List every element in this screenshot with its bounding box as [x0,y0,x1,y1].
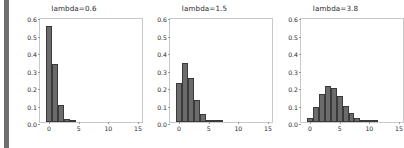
subplot-title: lambda=3.8 [270,4,401,13]
y-tick-mark [168,72,170,73]
y-tick-mark [299,54,301,55]
y-tick-label: 0.2 [157,86,167,93]
y-tick-label: 0.6 [288,16,298,23]
axes-frame: 0.00.10.20.30.40.50.6051015 [300,18,404,123]
y-tick-label: 0.2 [288,86,298,93]
y-tick-label: 0.3 [157,68,167,75]
x-tick-label: 10 [365,125,373,132]
y-tick-mark [38,124,40,125]
axes-frame: 0.00.10.20.30.40.50.6051015 [169,18,273,123]
plot-area [301,19,403,122]
y-tick-mark [38,54,40,55]
y-tick-mark [168,107,170,108]
y-tick-mark [299,37,301,38]
x-tick-label: 10 [104,125,112,132]
y-tick-mark [38,89,40,90]
y-tick-mark [38,107,40,108]
y-tick-mark [168,37,170,38]
y-tick-label: 0.4 [157,51,167,58]
axes-frame: 0.00.10.20.30.40.50.6051015 [39,18,143,123]
y-tick-mark [168,19,170,20]
y-tick-mark [168,89,170,90]
x-tick-mark [79,122,80,124]
y-tick-label: 0.2 [27,86,37,93]
y-tick-mark [38,37,40,38]
x-tick-label: 5 [338,125,342,132]
x-tick-mark [179,122,180,124]
x-tick-label: 0 [308,125,312,132]
y-tick-mark [299,19,301,20]
y-tick-mark [299,107,301,108]
y-tick-label: 0.0 [27,121,37,128]
subplot-1: lambda=0.60.00.10.20.30.40.50.6051015 [9,0,139,148]
x-tick-label: 15 [395,125,403,132]
x-tick-mark [268,122,269,124]
y-tick-mark [299,72,301,73]
x-tick-mark [238,122,239,124]
plot-area [170,19,272,122]
y-tick-mark [168,54,170,55]
y-tick-label: 0.1 [288,103,298,110]
x-tick-mark [108,122,109,124]
y-tick-label: 0.0 [288,121,298,128]
x-tick-mark [310,122,311,124]
x-tick-mark [399,122,400,124]
subplot-title: lambda=1.5 [139,4,270,13]
histogram-bar [218,120,224,122]
x-tick-mark [209,122,210,124]
y-tick-label: 0.1 [27,103,37,110]
plot-area [40,19,142,122]
subplot-title: lambda=0.6 [9,4,139,13]
x-tick-label: 5 [207,125,211,132]
x-tick-label: 0 [47,125,51,132]
y-tick-label: 0.4 [288,51,298,58]
y-tick-mark [299,89,301,90]
y-tick-label: 0.6 [27,16,37,23]
y-tick-label: 0.1 [157,103,167,110]
x-tick-mark [49,122,50,124]
y-tick-label: 0.3 [288,68,298,75]
x-tick-mark [369,122,370,124]
subplot-3: lambda=3.80.00.10.20.30.40.50.6051015 [270,0,401,148]
x-tick-label: 0 [177,125,181,132]
y-tick-label: 0.4 [27,51,37,58]
x-tick-label: 5 [77,125,81,132]
y-tick-mark [168,124,170,125]
x-tick-label: 10 [234,125,242,132]
y-tick-mark [38,19,40,20]
y-tick-label: 0.5 [157,33,167,40]
histogram-bar [372,120,378,122]
y-tick-mark [299,124,301,125]
histogram-bar [70,120,76,122]
y-tick-label: 0.5 [27,33,37,40]
subplot-2: lambda=1.50.00.10.20.30.40.50.6051015 [139,0,270,148]
y-tick-label: 0.0 [157,121,167,128]
y-tick-label: 0.6 [157,16,167,23]
y-tick-label: 0.3 [27,68,37,75]
y-tick-label: 0.5 [288,33,298,40]
y-tick-mark [38,72,40,73]
x-tick-mark [340,122,341,124]
